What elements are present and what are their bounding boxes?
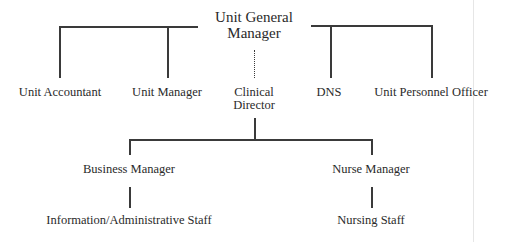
node-clinical-director: Clinical Director: [233, 86, 275, 112]
node-label: Information/Administrative Staff: [46, 214, 211, 227]
node-business-manager: Business Manager: [83, 163, 175, 176]
connector-clinical-director-stem: [254, 118, 256, 139]
node-unit-accountant: Unit Accountant: [19, 86, 101, 99]
connector-admin-staff: [129, 187, 131, 208]
connector-level2-horizontal: [129, 139, 372, 141]
page-edge-divider: [473, 0, 474, 242]
node-label: Unit Accountant: [19, 86, 101, 99]
node-unit-general-manager: Unit General Manager: [215, 9, 293, 41]
node-label: Nurse Manager: [332, 163, 409, 176]
org-chart: Unit General Manager Unit Accountant Uni…: [0, 0, 506, 242]
node-label: Business Manager: [83, 163, 175, 176]
connector-unit-personnel-officer: [431, 25, 433, 78]
connector-nursing-staff: [371, 187, 373, 208]
connector-clinical-director-dotted: [254, 50, 255, 78]
node-label: Unit Manager: [132, 86, 202, 99]
connector-dns: [330, 25, 332, 78]
node-unit-manager: Unit Manager: [132, 86, 202, 99]
node-label: Unit Personnel Officer: [374, 86, 488, 99]
node-information-administrative-staff: Information/Administrative Staff: [46, 214, 211, 227]
node-label-line2: Director: [233, 99, 275, 112]
node-label: Nursing Staff: [337, 214, 404, 227]
node-label-line2: Manager: [215, 25, 293, 41]
connector-unit-manager: [167, 26, 169, 78]
node-nurse-manager: Nurse Manager: [332, 163, 409, 176]
node-nursing-staff: Nursing Staff: [337, 214, 404, 227]
node-label-line1: Unit General: [215, 9, 293, 25]
node-label: DNS: [316, 86, 341, 99]
connector-unit-accountant: [59, 26, 61, 78]
node-dns: DNS: [316, 86, 341, 99]
connector-business-manager: [129, 139, 131, 155]
connector-left-horizontal: [59, 26, 198, 28]
node-unit-personnel-officer: Unit Personnel Officer: [374, 86, 488, 99]
connector-nurse-manager: [371, 139, 373, 155]
